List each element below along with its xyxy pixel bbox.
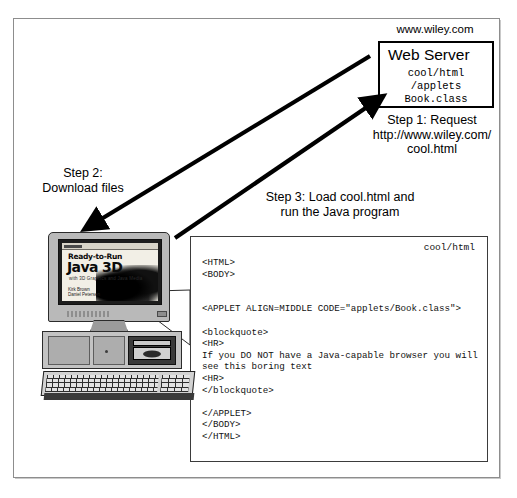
step-3-label: Step 3: Load cool.html and run the Java … (240, 190, 440, 219)
monitor-bezel: Ready-to-Run Java 3D with 3D Graphics an… (58, 239, 162, 305)
diagram-figure: www.wiley.com Web Server cool/html /appl… (0, 0, 517, 498)
keyboard-numpad (160, 375, 190, 392)
server-url-label: www.wiley.com (372, 23, 498, 35)
code-line: <APPLET ALIGN=MIDDLE CODE="applets/Book.… (202, 303, 482, 315)
step-2-label: Step 2: Download files (23, 166, 143, 195)
book-title-line-2: Java 3D (67, 260, 122, 274)
tower-power-led (105, 350, 108, 353)
keyboard-base-shadow (44, 393, 195, 400)
book-authors: Kirk Brown Daniel Petersen (68, 287, 100, 298)
code-line: <BODY> (202, 269, 482, 281)
monitor-vents (67, 311, 109, 317)
monitor-screen: Ready-to-Run Java 3D with 3D Graphics an… (62, 243, 158, 301)
code-line (202, 292, 482, 304)
code-line: </blockquote> (202, 385, 482, 397)
floppy-drive-slot (133, 340, 171, 346)
code-line: If you DO NOT have a Java-capable browse… (202, 350, 482, 373)
code-line: <HTML> (202, 257, 482, 269)
desktop-computer-illustration: Ready-to-Run Java 3D with 3D Graphics an… (42, 232, 194, 412)
computer-tower (42, 331, 182, 369)
code-listing: <HTML><BODY> <APPLET ALIGN=MIDDLE CODE="… (202, 257, 482, 443)
code-line: </HTML> (202, 431, 482, 443)
html-code-box: cool/html <HTML><BODY> <APPLET ALIGN=MID… (190, 236, 488, 462)
code-line (202, 315, 482, 327)
monitor-power-button[interactable] (157, 311, 167, 317)
code-line (202, 396, 482, 408)
code-line: <HR> (202, 373, 482, 385)
code-line (202, 280, 482, 292)
web-server-paths: cool/html /applets Book.class (380, 67, 492, 106)
tower-drive-bay (128, 336, 176, 365)
keyboard-main-keys (45, 375, 159, 392)
code-line: </BODY> (202, 419, 482, 431)
code-line: <HR> (202, 338, 482, 350)
tower-panel-left (48, 336, 90, 365)
monitor-chin (55, 307, 177, 321)
tower-panel-middle (93, 336, 125, 365)
browser-titlebar (62, 243, 158, 250)
monitor-case: Ready-to-Run Java 3D with 3D Graphics an… (48, 232, 170, 322)
code-box-caption: cool/html (424, 242, 475, 253)
web-server-box: Web Server cool/html /applets Book.class (378, 41, 494, 108)
cd-drive-tray (133, 347, 171, 360)
step-1-label: Step 1: Request http://www.wiley.com/ co… (352, 113, 512, 157)
code-line: </APPLET> (202, 408, 482, 420)
book-subtitle: with 3D Graphics and Java Media (69, 276, 142, 281)
web-server-title: Web Server (388, 46, 470, 64)
code-line: <blockquote> (202, 327, 482, 339)
